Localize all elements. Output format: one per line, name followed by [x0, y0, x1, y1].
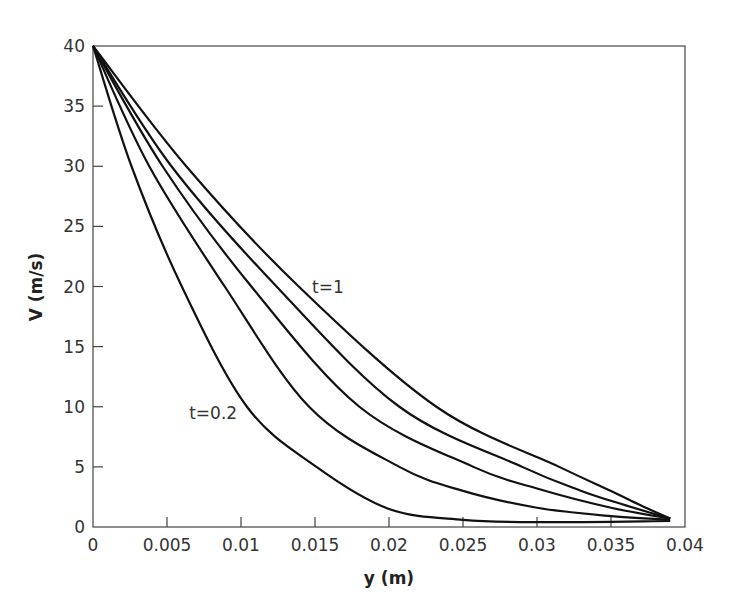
x-tick-label: 0.02	[370, 535, 408, 555]
series-line-t=0.2	[93, 46, 670, 522]
y-tick-label: 15	[63, 337, 85, 357]
x-tick-label: 0	[88, 535, 99, 555]
y-tick-label: 40	[63, 36, 85, 56]
y-axis-ticks: 0510152025303540	[63, 36, 103, 537]
x-tick-label: 0.015	[291, 535, 340, 555]
y-tick-label: 35	[63, 96, 85, 116]
y-tick-label: 0	[74, 517, 85, 537]
x-axis-title: y (m)	[364, 568, 414, 588]
x-tick-label: 0.01	[222, 535, 260, 555]
line-chart: 0510152025303540 00.0050.010.0150.020.02…	[0, 0, 730, 611]
x-tick-label: 0.04	[666, 535, 704, 555]
y-tick-label: 20	[63, 277, 85, 297]
y-axis-title: V (m/s)	[26, 253, 46, 322]
series-layer	[93, 46, 670, 522]
y-tick-label: 30	[63, 156, 85, 176]
x-tick-label: 0.005	[143, 535, 192, 555]
y-tick-label: 5	[74, 457, 85, 477]
x-tick-label: 0.03	[518, 535, 556, 555]
x-tick-label: 0.035	[587, 535, 636, 555]
x-tick-label: 0.025	[439, 535, 488, 555]
y-tick-label: 25	[63, 216, 85, 236]
curve-label: t=1	[312, 277, 344, 297]
curve-label: t=0.2	[189, 403, 237, 423]
y-tick-label: 10	[63, 397, 85, 417]
